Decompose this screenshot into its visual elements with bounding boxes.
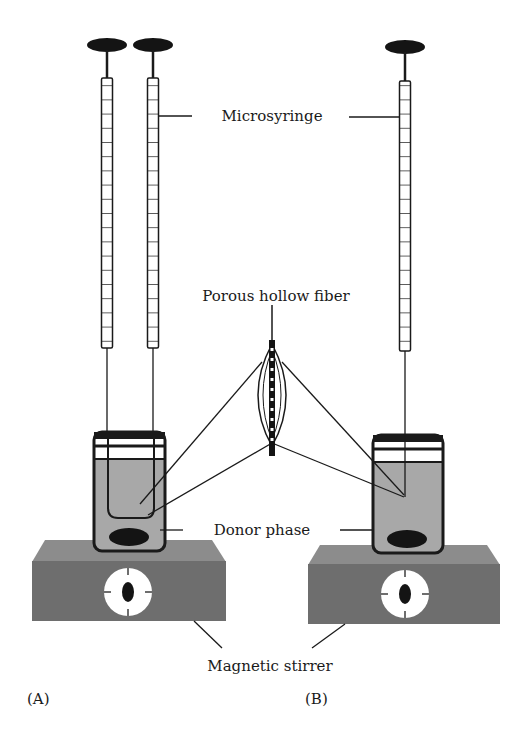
stir-bar-a bbox=[109, 528, 149, 546]
microsyringe-a1 bbox=[87, 38, 127, 432]
microsyringe-b bbox=[385, 40, 425, 497]
stirrer-dial-icon bbox=[104, 568, 152, 616]
vial-a bbox=[94, 432, 165, 551]
magnetic-stirrer-b bbox=[308, 545, 500, 624]
microsyringe-a2 bbox=[133, 38, 173, 432]
stirrer-dial-icon bbox=[381, 570, 429, 618]
plunger-cap-icon bbox=[133, 38, 173, 52]
stir-bar-b bbox=[387, 530, 427, 548]
panel-label-b: (B) bbox=[305, 690, 328, 708]
plunger-cap-icon bbox=[385, 40, 425, 54]
porous-hollow-fiber-detail bbox=[140, 305, 404, 515]
label-microsyringe: Microsyringe bbox=[221, 107, 322, 125]
hf-lpme-diagram: Microsyringe Porous hollow fiber Donor p… bbox=[0, 0, 530, 729]
setup-a bbox=[32, 38, 226, 621]
plunger-cap-icon bbox=[87, 38, 127, 52]
label-porous-hollow-fiber: Porous hollow fiber bbox=[202, 287, 350, 305]
vial-b bbox=[373, 435, 443, 553]
setup-b bbox=[308, 40, 500, 624]
label-donor-phase: Donor phase bbox=[214, 521, 311, 539]
label-magnetic-stirrer: Magnetic stirrer bbox=[207, 657, 333, 675]
panel-label-a: (A) bbox=[27, 690, 50, 708]
